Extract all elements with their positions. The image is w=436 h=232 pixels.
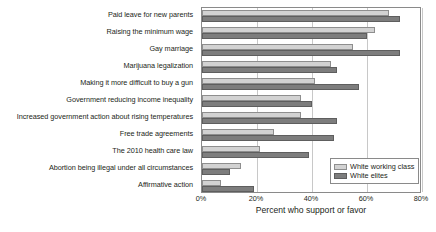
category-label: Paid leave for new parents: [108, 11, 193, 19]
x-tick-label: 40%: [304, 194, 319, 203]
legend-swatch-icon: [334, 173, 347, 179]
bar-elites: [202, 152, 309, 158]
bar-elites: [202, 50, 400, 56]
bar-group: [202, 112, 420, 124]
bar-group: [202, 129, 420, 141]
x-tick-label: 80%: [414, 194, 429, 203]
category-label: Making it more difficult to buy a gun: [80, 79, 193, 87]
bar-group: [202, 44, 420, 56]
legend-label: White working class: [350, 162, 414, 171]
bar-elites: [202, 84, 359, 90]
chart-figure: Paid leave for new parentsRaising the mi…: [0, 0, 436, 232]
bar-elites: [202, 67, 337, 73]
bar-elites: [202, 169, 230, 175]
legend-label: White elites: [350, 171, 388, 180]
x-axis-tick-labels: 0%20%40%60%80%: [201, 194, 421, 205]
bar-group: [202, 146, 420, 158]
legend-swatch-icon: [334, 164, 347, 170]
bar-elites: [202, 118, 337, 124]
category-label: Abortion being illegal under all circums…: [49, 164, 193, 172]
x-tick-label: 0%: [196, 194, 207, 203]
category-label: Raising the minimum wage: [107, 28, 193, 36]
bar-elites: [202, 101, 312, 107]
category-label: Increased government action about rising…: [17, 113, 193, 121]
bar-group: [202, 10, 420, 22]
category-label: Government reducing income inequality: [66, 96, 193, 104]
bar-group: [202, 61, 420, 73]
category-label: Marijuana legalization: [124, 62, 193, 70]
x-tick-label: 20%: [249, 194, 264, 203]
x-tick-label: 60%: [359, 194, 374, 203]
category-axis-labels: Paid leave for new parentsRaising the mi…: [0, 7, 197, 193]
bar-elites: [202, 135, 334, 141]
chart-legend: White working classWhite elites: [330, 158, 419, 184]
bar-group: [202, 95, 420, 107]
category-label: The 2010 health care law: [112, 147, 193, 155]
category-label: Gay marriage: [149, 45, 193, 53]
category-label: Affirmative action: [138, 181, 193, 189]
legend-item: White elites: [334, 171, 414, 180]
bar-elites: [202, 33, 367, 39]
bar-group: [202, 27, 420, 39]
x-axis-title: Percent who support or favor: [201, 205, 421, 216]
legend-item: White working class: [334, 162, 414, 171]
category-label: Free trade agreements: [120, 130, 193, 138]
gridline: [422, 8, 423, 192]
bar-group: [202, 78, 420, 90]
bar-elites: [202, 16, 400, 22]
bar-elites: [202, 186, 254, 192]
